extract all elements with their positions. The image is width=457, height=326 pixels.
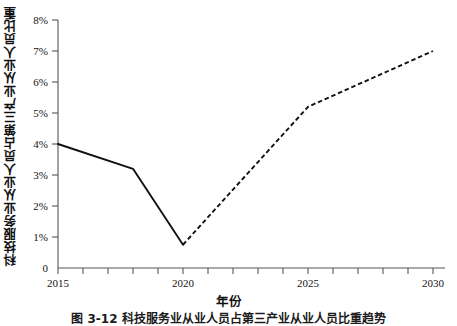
series-line-historical — [58, 144, 183, 245]
y-axis-ticks — [52, 20, 58, 237]
y-tick-label-2: 2% — [16, 200, 48, 212]
x-tick-label-2025: 2025 — [297, 277, 319, 289]
y-tick-label-0: 0 — [16, 262, 48, 274]
x-axis-title: 年份 — [0, 291, 457, 310]
x-axis-ticks — [58, 268, 433, 274]
y-tick-label-7: 7% — [16, 45, 48, 57]
y-tick-label-1: 1% — [16, 231, 48, 243]
y-tick-label-8: 8% — [16, 14, 48, 26]
y-tick-label-3: 3% — [16, 169, 48, 181]
x-tick-label-2015: 2015 — [47, 277, 69, 289]
figure-caption: 图 3-12 科技服务业从业人员占第三产业从业人员比重趋势 — [0, 309, 457, 326]
series-line-forecast — [183, 51, 433, 245]
x-tick-label-2030: 2030 — [422, 277, 444, 289]
axis-lines — [58, 20, 445, 268]
y-tick-label-6: 6% — [16, 76, 48, 88]
y-tick-label-4: 4% — [16, 138, 48, 150]
y-tick-label-5: 5% — [16, 107, 48, 119]
x-tick-label-2020: 2020 — [172, 277, 194, 289]
